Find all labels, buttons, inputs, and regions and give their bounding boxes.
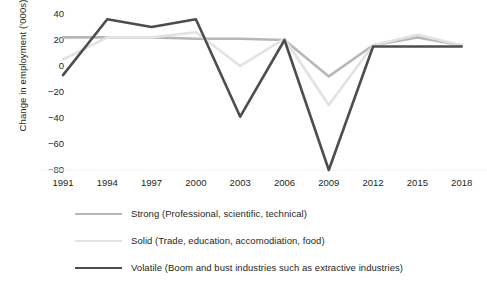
chart-legend: Strong (Professional, scientific, techni… [75,200,487,281]
legend-line-swatch [75,267,122,269]
legend-label: Volatile (Boom and bust industries such … [131,262,403,273]
legend-item[interactable]: Strong (Professional, scientific, techni… [75,200,487,227]
legend-item[interactable]: Solid (Trade, education, accomodiation, … [75,227,487,254]
legend-label: Solid (Trade, education, accomodiation, … [131,235,325,246]
legend-label: Strong (Professional, scientific, techni… [131,208,307,219]
employment-change-line-chart: Change in employment ('000s) 40200−20−40… [0,0,487,281]
legend-line-swatch [75,213,122,215]
legend-item[interactable]: Volatile (Boom and bust industries such … [75,254,487,281]
series-line-3 [63,19,462,170]
series-line-1 [63,37,462,76]
series-line-2 [63,32,462,105]
legend-line-swatch [75,240,122,242]
